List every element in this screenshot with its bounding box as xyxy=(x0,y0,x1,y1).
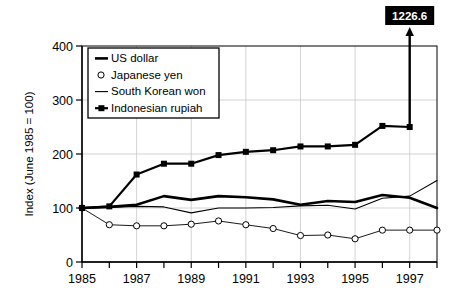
data-point-marker xyxy=(297,143,303,149)
y-axis-tick-label: 0 xyxy=(66,256,73,270)
x-axis-tick-label: 1991 xyxy=(232,272,260,286)
x-axis-tick-label: 1989 xyxy=(177,272,205,286)
data-point-marker xyxy=(325,232,331,238)
x-axis-ticks xyxy=(82,262,437,268)
chart-legend: US dollarJapanese yenSouth Korean wonInd… xyxy=(88,48,219,118)
legend-label: US dollar xyxy=(111,52,158,64)
data-point-marker xyxy=(134,223,140,229)
chart-figure: 0100200300400 19851987198919911993199519… xyxy=(0,0,463,303)
x-axis-tick-label: 1987 xyxy=(123,272,151,286)
y-axis-tick-labels: 0100200300400 xyxy=(52,40,73,270)
data-point-marker xyxy=(216,152,222,158)
data-point-marker xyxy=(270,147,276,153)
annotation-arrow-head xyxy=(405,27,413,36)
series-layer xyxy=(79,123,440,242)
data-point-marker xyxy=(297,232,303,238)
data-point-marker xyxy=(352,142,358,148)
legend-item: Japanese yen xyxy=(98,69,183,81)
data-point-marker xyxy=(379,227,385,233)
y-axis-tick-label: 100 xyxy=(52,202,73,216)
y-axis-tick-label: 200 xyxy=(52,148,73,162)
data-point-marker xyxy=(161,223,167,229)
x-axis-tick-labels: 1985198719891991199319951997 xyxy=(68,272,424,286)
data-point-marker xyxy=(325,143,331,149)
annotation-label: 1226.6 xyxy=(392,10,427,22)
legend-label: South Korean won xyxy=(111,85,206,97)
data-point-marker xyxy=(134,172,140,178)
data-point-marker xyxy=(243,222,249,228)
y-axis-tick-label: 400 xyxy=(52,40,73,54)
data-point-marker xyxy=(407,227,413,233)
data-point-marker xyxy=(106,222,112,228)
data-point-marker xyxy=(188,161,194,167)
y-axis-ticks xyxy=(76,46,82,262)
legend-marker xyxy=(98,105,104,111)
legend-label: Japanese yen xyxy=(111,69,183,81)
data-point-marker xyxy=(243,149,249,155)
data-point-marker xyxy=(215,218,221,224)
y-axis-tick-label: 300 xyxy=(52,94,73,108)
y-axis-title: Index (June 1985 = 100) xyxy=(23,91,35,216)
data-point-marker xyxy=(270,225,276,231)
legend-item: South Korean won xyxy=(95,85,206,97)
x-axis-tick-label: 1993 xyxy=(287,272,315,286)
series-japanese-yen xyxy=(79,205,440,242)
legend-marker xyxy=(98,72,104,78)
data-point-marker xyxy=(352,236,358,242)
annotation-callout: 1226.6 xyxy=(385,6,434,127)
data-point-marker xyxy=(79,205,85,211)
x-axis-tick-label: 1985 xyxy=(68,272,96,286)
line-chart: 0100200300400 19851987198919911993199519… xyxy=(0,0,463,303)
data-point-marker xyxy=(161,161,167,167)
legend-label: Indonesian rupiah xyxy=(111,102,202,114)
data-point-marker xyxy=(188,221,194,227)
data-point-marker xyxy=(379,123,385,129)
data-point-marker xyxy=(434,227,440,233)
legend-item: Indonesian rupiah xyxy=(95,102,202,114)
data-point-marker xyxy=(106,203,112,209)
x-axis-tick-label: 1995 xyxy=(341,272,369,286)
x-axis-tick-label: 1997 xyxy=(396,272,424,286)
